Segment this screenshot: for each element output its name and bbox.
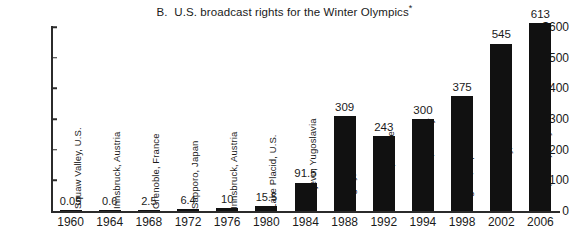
x-tick-label: 1972 — [175, 215, 202, 229]
x-axis-line — [51, 211, 560, 213]
bar-slot[interactable] — [412, 20, 434, 211]
bar[interactable] — [295, 183, 317, 211]
bar-slot[interactable] — [373, 20, 395, 211]
bar-slot[interactable] — [334, 20, 356, 211]
chart-title-text: B. U.S. broadcast rights for the Winter … — [157, 6, 409, 18]
bar-value-label: 613 — [531, 9, 550, 21]
bar-slot[interactable] — [255, 20, 277, 211]
bar[interactable] — [451, 96, 473, 211]
bar[interactable] — [490, 44, 512, 211]
x-tick-label: 1964 — [96, 215, 123, 229]
bar[interactable] — [412, 119, 434, 211]
bar[interactable] — [177, 209, 199, 211]
bar[interactable] — [99, 210, 121, 212]
bar-slot[interactable] — [60, 20, 82, 211]
bar[interactable] — [373, 136, 395, 211]
bar-slot[interactable] — [216, 20, 238, 211]
bar-slot[interactable] — [177, 20, 199, 211]
x-tick-label: 2006 — [527, 215, 554, 229]
x-tick-label: 1998 — [449, 215, 476, 229]
x-tick-label: 1988 — [331, 215, 358, 229]
bar[interactable] — [529, 23, 551, 211]
x-tick-label: 1984 — [292, 215, 319, 229]
x-tick-label: 1976 — [214, 215, 241, 229]
x-tick-label: 1980 — [253, 215, 280, 229]
x-tick-label: 1994 — [410, 215, 437, 229]
bar-slot[interactable] — [99, 20, 121, 211]
chart-page: B. U.S. broadcast rights for the Winter … — [0, 0, 569, 238]
bar-slot[interactable] — [138, 20, 160, 211]
bar[interactable] — [216, 208, 238, 211]
x-tick-label: 1968 — [136, 215, 163, 229]
bar[interactable] — [60, 210, 82, 212]
chart-title: B. U.S. broadcast rights for the Winter … — [0, 3, 569, 18]
chart-title-footnote-marker: * — [409, 3, 413, 13]
x-tick-label: 1960 — [57, 215, 84, 229]
bar-slot[interactable] — [529, 20, 551, 211]
x-tick-label: 1992 — [370, 215, 397, 229]
bar-slot[interactable] — [295, 20, 317, 211]
x-tick-label: 2002 — [488, 215, 515, 229]
bar[interactable] — [255, 206, 277, 211]
plot-area: 0.05Squaw Valley, U.S.0.6Innsbruck, Aust… — [51, 20, 561, 211]
bar[interactable] — [334, 116, 356, 211]
bar-slot[interactable] — [451, 20, 473, 211]
bar[interactable] — [138, 210, 160, 212]
bar-slot[interactable] — [490, 20, 512, 211]
